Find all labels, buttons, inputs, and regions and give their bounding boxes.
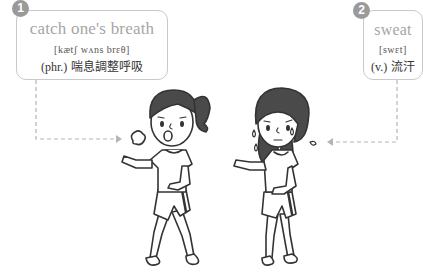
girl-sweating: [234, 88, 316, 265]
connector-arrow-1: [36, 80, 116, 139]
sweat-drop-icon: [291, 128, 294, 135]
number-badge-2: 2: [353, 2, 370, 19]
arrow-head-1: [116, 135, 122, 143]
definition-text: 流汗: [391, 60, 415, 74]
vocab-card-1: catch one's breath [kætʃ wʌns brɛθ] (phr…: [16, 10, 168, 80]
vocab-definition: (phr.) 喘息調整呼吸: [17, 59, 167, 75]
vocab-phonetic: [swɛt]: [364, 43, 422, 57]
girl-catching-breath: [122, 90, 210, 265]
vocab-phonetic: [kætʃ wʌns brɛθ]: [17, 43, 167, 57]
connector-arrow-2: [333, 80, 397, 142]
sweat-drop-icon: [253, 130, 256, 137]
part-of-speech: (phr.): [41, 60, 67, 74]
sweat-drop-icon: [310, 141, 316, 145]
number-badge-1: 1: [12, 0, 29, 17]
vocab-term: sweat: [364, 20, 422, 40]
arrow-head-2: [327, 138, 333, 146]
vocab-definition: (v.) 流汗: [364, 59, 422, 75]
part-of-speech: (v.): [371, 60, 387, 74]
sweat-drop-icon: [255, 144, 258, 151]
vocab-card-2: sweat [swɛt] (v.) 流汗: [363, 10, 423, 80]
breath-puff-icon: [131, 131, 145, 145]
definition-text: 喘息調整呼吸: [71, 60, 143, 74]
vocab-term: catch one's breath: [17, 19, 167, 39]
